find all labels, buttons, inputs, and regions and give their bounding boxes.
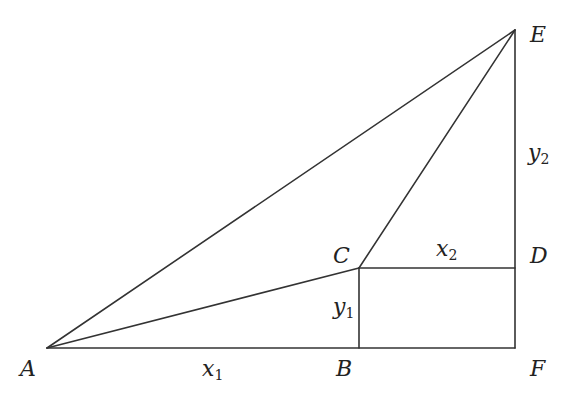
label-x2-sub: 2 [448, 247, 457, 263]
label-E: E [529, 22, 546, 47]
label-y2-var: y [527, 140, 541, 165]
label-y2: y2 [527, 140, 549, 167]
label-A: A [18, 356, 36, 381]
segment-AC [47, 268, 359, 348]
label-y1-sub: 1 [345, 305, 354, 321]
label-B: B [335, 356, 352, 381]
segment-AE [47, 30, 515, 348]
label-D: D [529, 243, 548, 268]
label-C: C [333, 243, 350, 268]
label-x1-sub: 1 [214, 367, 223, 383]
label-x1: x1 [202, 356, 223, 383]
geometry-diagram: A B C D E F x1 x2 y1 y2 [0, 0, 578, 398]
label-x2-var: x [436, 236, 449, 261]
label-x2: x2 [436, 236, 457, 263]
label-y1: y1 [332, 294, 354, 321]
label-y1-var: y [332, 294, 346, 319]
label-y2-sub: 2 [540, 151, 549, 167]
segment-CE [359, 30, 515, 268]
label-F: F [529, 356, 546, 381]
label-x1-var: x [202, 356, 215, 381]
